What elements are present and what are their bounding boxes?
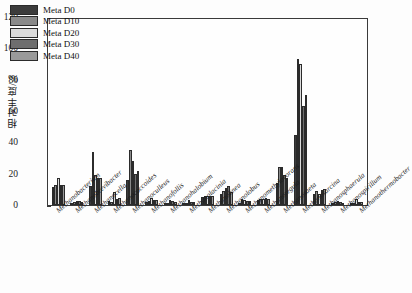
legend-swatch [10,39,38,49]
y-tick-label: 40 [0,137,18,147]
legend-label: Meta D20 [43,28,79,38]
bar-group [126,19,139,205]
bar-group [294,19,307,205]
legend-label: Meta D10 [43,16,79,26]
bar-group [182,19,195,205]
x-axis-labels: MethanobacteriumMethanobrevibacterMethan… [0,206,388,293]
legend-label: Meta D0 [43,5,75,15]
legend-swatch [10,16,38,26]
bar-group [257,19,270,205]
legend: Meta D0Meta D10Meta D20Meta D30Meta D40 [10,4,79,62]
legend-item: Meta D10 [10,16,79,28]
legend-item: Meta D0 [10,4,79,16]
legend-swatch [10,28,38,38]
y-tick-label: 80 [0,75,18,85]
legend-label: Meta D40 [43,51,79,61]
legend-label: Meta D30 [43,39,79,49]
y-tick-label: 60 [0,106,18,116]
legend-item: Meta D40 [10,50,79,62]
legend-item: Meta D20 [10,27,79,39]
y-tick-label: 20 [0,169,18,179]
bar-group [238,19,251,205]
legend-swatch [10,5,38,15]
legend-item: Meta D30 [10,39,79,51]
legend-swatch [10,51,38,61]
bar-group [313,19,326,205]
